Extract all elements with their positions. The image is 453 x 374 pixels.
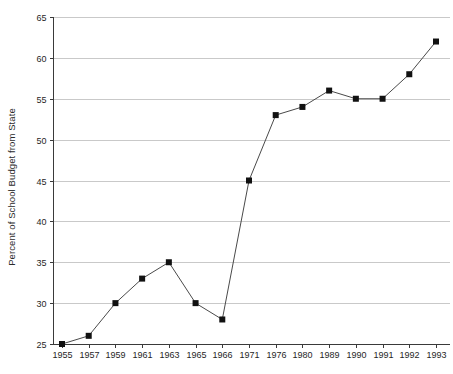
x-tick-label: 1965	[186, 350, 206, 360]
y-axis-ticks: 253035404550556065	[36, 13, 53, 350]
y-tick-label: 35	[36, 258, 46, 268]
x-tick-label: 1980	[292, 350, 312, 360]
x-tick-label: 1963	[159, 350, 179, 360]
y-tick-label: 40	[36, 217, 46, 227]
x-tick-label: 1955	[52, 350, 72, 360]
x-tick-label: 1957	[79, 350, 99, 360]
y-tick-label: 25	[36, 340, 46, 350]
data-point-marker	[299, 104, 305, 110]
data-point-marker	[273, 112, 279, 118]
data-point-marker	[433, 39, 439, 45]
x-tick-label: 1976	[266, 350, 286, 360]
x-tick-label: 1991	[373, 350, 393, 360]
data-point-marker	[380, 96, 386, 102]
data-point-marker	[246, 178, 252, 184]
data-point-marker	[166, 259, 172, 265]
data-point-marker	[353, 96, 359, 102]
data-point-marker	[406, 71, 412, 77]
x-tick-label: 1959	[105, 350, 125, 360]
x-tick-label: 1990	[346, 350, 366, 360]
x-tick-label: 1993	[426, 350, 446, 360]
data-point-marker	[219, 316, 225, 322]
line-chart: Percent of School Budget from State 2530…	[0, 0, 453, 374]
chart-plot-area: 253035404550556065 195519571959196119631…	[0, 0, 453, 374]
y-tick-label: 65	[36, 13, 46, 23]
y-tick-label: 45	[36, 177, 46, 187]
y-tick-label: 55	[36, 95, 46, 105]
data-point-marker	[112, 300, 118, 306]
x-axis-ticks: 1955195719591961196319651966197119761980…	[52, 344, 446, 360]
data-point-marker	[193, 300, 199, 306]
data-point-marker	[86, 333, 92, 339]
data-point-marker	[139, 276, 145, 282]
x-tick-label: 1992	[399, 350, 419, 360]
data-series-line	[62, 42, 436, 344]
x-tick-label: 1971	[239, 350, 259, 360]
data-point-marker	[59, 341, 65, 347]
y-tick-label: 50	[36, 136, 46, 146]
x-tick-label: 1961	[132, 350, 152, 360]
y-tick-label: 60	[36, 54, 46, 64]
x-tick-label: 1989	[319, 350, 339, 360]
x-tick-label: 1966	[212, 350, 232, 360]
data-point-marker	[326, 88, 332, 94]
y-tick-label: 30	[36, 299, 46, 309]
data-point-markers	[59, 39, 439, 347]
